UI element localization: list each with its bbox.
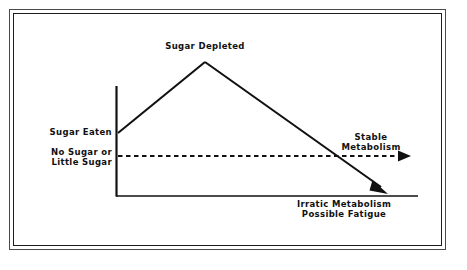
stable-metabolism-arrowhead-icon bbox=[398, 151, 411, 162]
label-sugar-depleted-text: Sugar Depleted bbox=[165, 41, 245, 51]
fatigue-arrowhead-icon bbox=[370, 180, 389, 194]
falling-sugar-line bbox=[205, 62, 381, 187]
label-stable-metabolism: Stable Metabolism bbox=[341, 132, 400, 152]
figure-canvas: Sugar Depleted Sugar Eaten No Sugar or L… bbox=[0, 0, 467, 270]
label-irratic-line1: Irratic Metabolism bbox=[297, 199, 391, 209]
label-stable-metabolism-line1: Stable bbox=[341, 132, 400, 142]
label-irratic-metabolism-possible-fatigue: Irratic Metabolism Possible Fatigue bbox=[297, 199, 391, 219]
label-sugar-eaten-text: Sugar Eaten bbox=[50, 127, 112, 137]
label-sugar-depleted: Sugar Depleted bbox=[165, 41, 245, 51]
label-no-sugar-or-little-sugar: No Sugar or Little Sugar bbox=[51, 147, 112, 167]
label-irratic-line2: Possible Fatigue bbox=[297, 209, 391, 219]
label-no-sugar-line2: Little Sugar bbox=[51, 157, 112, 167]
label-no-sugar-line1: No Sugar or bbox=[51, 147, 112, 157]
label-stable-metabolism-line2: Metabolism bbox=[341, 142, 400, 152]
rising-sugar-line bbox=[118, 62, 205, 133]
label-sugar-eaten: Sugar Eaten bbox=[50, 127, 112, 137]
